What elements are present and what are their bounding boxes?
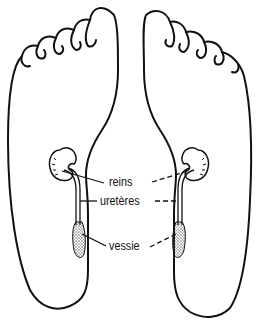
- label-kidneys: reins: [109, 176, 132, 188]
- label-bladder: vessie: [109, 240, 140, 252]
- label-ureters: uretères: [100, 195, 140, 207]
- reflexology-diagram: reins uretères vessie: [0, 0, 258, 323]
- left-bladder-zone: [73, 222, 86, 257]
- feet-drawing: [0, 0, 258, 323]
- right-bladder-zone: [173, 222, 186, 257]
